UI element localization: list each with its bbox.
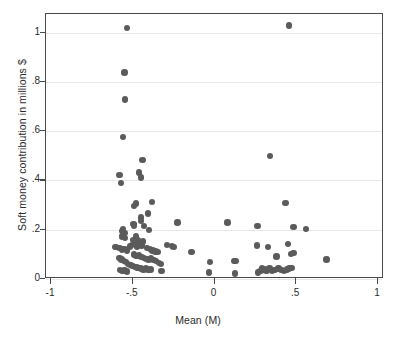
- x-axis-tick: [295, 278, 296, 284]
- y-axis-tick: [40, 81, 45, 82]
- y-axis-tick: [40, 32, 45, 33]
- y-axis-tick: [40, 229, 45, 230]
- y-axis-tick-label: 0: [18, 272, 40, 283]
- y-axis-tick-label: 1: [18, 26, 40, 37]
- scatter-plot-figure: Soft money contribution in millions $ Me…: [0, 0, 396, 340]
- x-axis-title: Mean (M): [0, 314, 396, 326]
- y-axis-tick-label: .6: [18, 124, 40, 135]
- x-axis-tick-label: 1: [362, 287, 392, 298]
- y-axis-tick-label: .2: [18, 223, 40, 234]
- gridline-y: [46, 131, 382, 132]
- x-axis-tick-label: -.5: [117, 287, 147, 298]
- x-axis-tick: [132, 278, 133, 284]
- y-axis-tick-label: .8: [18, 75, 40, 86]
- y-axis-tick: [40, 130, 45, 131]
- x-axis-tick-label: .5: [280, 287, 310, 298]
- x-axis-tick: [377, 278, 378, 284]
- gridline-y: [46, 230, 382, 231]
- x-axis-tick-label: 0: [199, 287, 229, 298]
- y-axis-tick: [40, 179, 45, 180]
- plot-area: [45, 13, 383, 278]
- x-axis-tick: [214, 278, 215, 284]
- gridline-y: [46, 180, 382, 181]
- gridline-y: [46, 33, 382, 34]
- x-axis-tick: [50, 278, 51, 284]
- y-axis-tick-label: .4: [18, 173, 40, 184]
- y-axis-tick: [40, 278, 45, 279]
- y-axis-title: Soft money contribution in millions $: [16, 0, 34, 295]
- x-axis-tick-label: -1: [35, 287, 65, 298]
- gridline-y: [46, 82, 382, 83]
